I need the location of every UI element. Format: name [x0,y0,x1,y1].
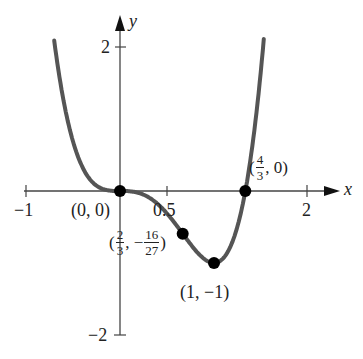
label-zero: ( 4 3 , 0) [249,153,288,182]
point-minimum [208,257,220,269]
x-tick-label-half: 0.5 [153,201,176,219]
y-tick-label-neg2: −2 [88,326,107,344]
x-tick-label-neg1: −1 [14,201,33,219]
label-minimum: (1, −1) [180,283,229,301]
label-inflection: ( 2 3 , − 16 27 ) [109,228,166,257]
x-axis-label: x [344,180,352,198]
label-origin: (0, 0) [71,201,110,219]
y-axis-label: y [129,12,137,30]
point-zero [239,185,251,197]
y-axis-arrow-icon [115,15,125,31]
fraction-2-3: 2 3 [116,228,125,257]
x-axis-arrow-icon [324,186,340,196]
x-tick-label-2: 2 [302,201,311,219]
function-plot [0,0,363,359]
y-tick-label-2: 2 [101,38,110,56]
point-origin [114,185,126,197]
point-inflection [177,228,189,240]
fraction-4-3: 4 3 [256,153,265,182]
fraction-16-27: 16 27 [144,228,159,257]
